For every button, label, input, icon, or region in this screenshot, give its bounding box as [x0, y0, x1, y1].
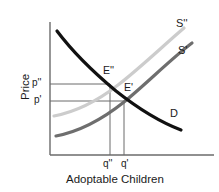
supply-demand-chart: S'' S' D E'' E' p'' p' q'' q' Price Adop… — [0, 0, 219, 192]
y-axis-title: Price — [20, 74, 32, 100]
tick-label-p-prime: p' — [34, 95, 41, 105]
curve-label-supply-original: S' — [178, 45, 187, 56]
tick-label-q-prime: q' — [121, 159, 128, 169]
tick-label-q-double-prime: q'' — [103, 159, 112, 169]
curve-label-demand: D — [170, 108, 178, 119]
tick-label-p-double-prime: p'' — [32, 78, 41, 88]
equilibrium-label-e-prime: E' — [124, 82, 133, 93]
x-axis-title: Adoptable Children — [66, 174, 164, 186]
curve-supply-shifted — [54, 28, 184, 116]
equilibrium-label-e-double-prime: E'' — [103, 65, 114, 76]
curve-label-supply-shifted: S'' — [176, 18, 188, 29]
